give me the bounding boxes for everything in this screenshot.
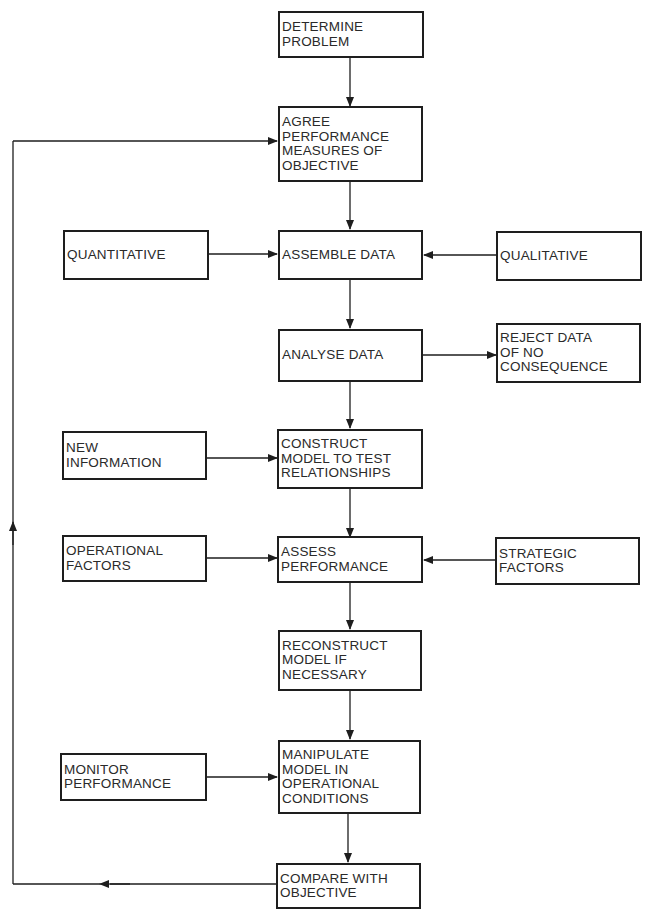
node-monitor-performance: MONITOR PERFORMANCE bbox=[60, 753, 207, 801]
node-label: CONSTRUCT bbox=[281, 437, 419, 452]
node-label: QUALITATIVE bbox=[500, 249, 638, 264]
flowchart-diagram: DETERMINE PROBLEM AGREE PERFORMANCE MEAS… bbox=[0, 0, 648, 920]
node-construct-model: CONSTRUCT MODEL TO TEST RELATIONSHIPS bbox=[277, 429, 423, 489]
node-label: NEW bbox=[66, 441, 203, 456]
node-label: MODEL TO TEST bbox=[281, 452, 419, 467]
node-new-information: NEW INFORMATION bbox=[62, 431, 207, 480]
node-label: REJECT DATA bbox=[500, 331, 637, 346]
node-label: NECESSARY bbox=[282, 668, 418, 683]
node-label: MODEL IN bbox=[282, 763, 417, 778]
node-quantitative: QUANTITATIVE bbox=[63, 230, 209, 280]
node-label: OF NO bbox=[500, 346, 637, 361]
node-label: OPERATIONAL bbox=[66, 544, 203, 559]
node-label: PERFORMANCE bbox=[281, 560, 419, 575]
node-qualitative: QUALITATIVE bbox=[496, 231, 642, 281]
node-operational-factors: OPERATIONAL FACTORS bbox=[62, 535, 207, 582]
node-compare-with-objective: COMPARE WITH OBJECTIVE bbox=[276, 863, 421, 909]
node-label: MODEL IF bbox=[282, 653, 418, 668]
node-label: CONDITIONS bbox=[282, 792, 417, 807]
node-determine-problem: DETERMINE PROBLEM bbox=[278, 11, 424, 58]
node-label: ANALYSE DATA bbox=[282, 348, 419, 363]
node-label: OBJECTIVE bbox=[280, 886, 417, 901]
node-label: FACTORS bbox=[499, 561, 636, 576]
node-manipulate-model: MANIPULATE MODEL IN OPERATIONAL CONDITIO… bbox=[278, 740, 421, 814]
node-label: ASSEMBLE DATA bbox=[282, 248, 419, 263]
node-agree-performance-measures: AGREE PERFORMANCE MEASURES OF OBJECTIVE bbox=[278, 106, 423, 182]
node-assess-performance: ASSESS PERFORMANCE bbox=[277, 536, 423, 583]
node-strategic-factors: STRATEGIC FACTORS bbox=[495, 537, 640, 585]
node-label: QUANTITATIVE bbox=[67, 248, 205, 263]
node-label: PROBLEM bbox=[282, 35, 420, 50]
node-label: CONSEQUENCE bbox=[500, 360, 637, 375]
node-analyse-data: ANALYSE DATA bbox=[278, 329, 423, 382]
node-label: COMPARE WITH bbox=[280, 872, 417, 887]
node-label: PERFORMANCE bbox=[282, 130, 419, 145]
node-label: OBJECTIVE bbox=[282, 159, 419, 174]
node-label: INFORMATION bbox=[66, 456, 203, 471]
node-label: MANIPULATE bbox=[282, 748, 417, 763]
node-label: MONITOR bbox=[64, 763, 203, 778]
node-label: AGREE bbox=[282, 115, 419, 130]
node-label: STRATEGIC bbox=[499, 547, 636, 562]
node-reject-data: REJECT DATA OF NO CONSEQUENCE bbox=[496, 323, 641, 383]
node-label: MEASURES OF bbox=[282, 144, 419, 159]
node-label: ASSESS bbox=[281, 545, 419, 560]
node-assemble-data: ASSEMBLE DATA bbox=[278, 230, 423, 280]
node-label: RELATIONSHIPS bbox=[281, 466, 419, 481]
node-label: PERFORMANCE bbox=[64, 777, 203, 792]
node-label: OPERATIONAL bbox=[282, 777, 417, 792]
node-label: FACTORS bbox=[66, 559, 203, 574]
node-reconstruct-model: RECONSTRUCT MODEL IF NECESSARY bbox=[278, 630, 422, 691]
node-label: DETERMINE bbox=[282, 20, 420, 35]
node-label: RECONSTRUCT bbox=[282, 639, 418, 654]
